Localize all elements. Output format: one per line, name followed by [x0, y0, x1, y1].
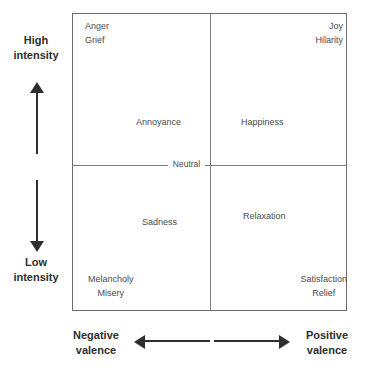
- axis-label-positive-valence-line1: Positive: [288, 328, 366, 343]
- term-relief: Relief: [300, 286, 347, 300]
- axis-label-negative-valence: Negative valence: [60, 328, 132, 358]
- term-anger: Anger: [85, 19, 109, 33]
- axis-label-negative-valence-line2: valence: [60, 343, 132, 358]
- term-misery: Misery: [88, 286, 134, 300]
- arrow-right-shaft: [214, 340, 280, 342]
- quadrant-bottom-right-corner-terms: Satisfaction Relief: [300, 272, 347, 300]
- term-sadness: Sadness: [142, 215, 177, 229]
- neutral-center-label: Neutral: [0, 159, 373, 169]
- axis-label-low-intensity-line2: intensity: [2, 270, 70, 285]
- term-annoyance: Annoyance: [136, 115, 181, 129]
- arrow-down-head: [30, 241, 44, 252]
- term-hilarity: Hilarity: [315, 33, 343, 47]
- term-satisfaction: Satisfaction: [300, 272, 347, 286]
- axis-label-low-intensity-line1: Low: [2, 255, 70, 270]
- axis-label-negative-valence-line1: Negative: [60, 328, 132, 343]
- neutral-center-label-text: Neutral: [168, 159, 205, 169]
- quadrant-bottom-left-corner-terms: Melancholy Misery: [88, 272, 134, 300]
- quadrant-top-left-corner-terms: Anger Grief: [85, 19, 109, 47]
- term-grief: Grief: [85, 33, 109, 47]
- arrow-left-shaft: [144, 340, 210, 342]
- emotion-quadrant-diagram: Neutral Anger Grief Annoyance Joy Hilari…: [0, 0, 373, 371]
- arrow-up-icon: [30, 82, 44, 154]
- axis-label-low-intensity: Low intensity: [2, 255, 70, 285]
- term-melancholy: Melancholy: [88, 272, 134, 286]
- axis-label-high-intensity-line2: intensity: [2, 48, 70, 63]
- arrow-down-shaft: [36, 180, 38, 243]
- arrow-down-icon: [30, 180, 44, 252]
- axis-label-positive-valence: Positive valence: [288, 328, 366, 358]
- term-relaxation: Relaxation: [243, 209, 286, 223]
- arrow-up-shaft: [36, 91, 38, 154]
- arrow-right-head: [279, 335, 290, 349]
- term-joy: Joy: [315, 19, 343, 33]
- axis-label-high-intensity-line1: High: [2, 33, 70, 48]
- term-happiness: Happiness: [241, 115, 284, 129]
- axis-label-positive-valence-line2: valence: [288, 343, 366, 358]
- arrow-right-icon: [214, 334, 290, 348]
- quadrant-top-right-corner-terms: Joy Hilarity: [315, 19, 343, 47]
- arrow-left-head: [134, 335, 145, 349]
- arrow-left-icon: [134, 334, 210, 348]
- axis-label-high-intensity: High intensity: [2, 33, 70, 63]
